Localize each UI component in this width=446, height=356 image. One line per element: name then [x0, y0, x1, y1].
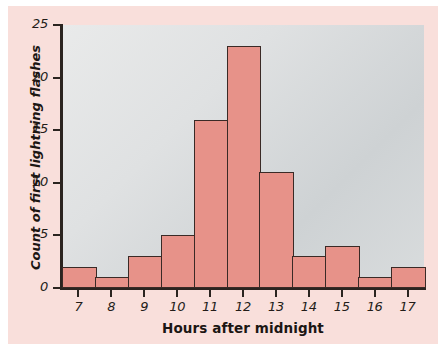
x-axis-tick	[242, 289, 244, 297]
x-axis-tick-label: 10	[162, 299, 192, 314]
histogram-bar	[325, 246, 360, 288]
y-axis-line	[60, 24, 63, 290]
x-axis-tick	[176, 289, 178, 297]
x-axis-title: Hours after midnight	[62, 320, 424, 336]
y-axis-title: Count of first lightning flashes	[28, 18, 43, 298]
y-axis-tick	[53, 77, 61, 79]
x-axis-tick-label: 15	[327, 299, 357, 314]
x-axis-tick	[209, 289, 211, 297]
y-axis-tick	[53, 182, 61, 184]
histogram-bar	[62, 267, 97, 288]
histogram-bar	[227, 46, 262, 288]
histogram-bar	[259, 172, 294, 288]
y-axis-tick	[53, 24, 61, 26]
x-axis-tick	[110, 289, 112, 297]
y-axis-tick	[53, 129, 61, 131]
x-axis-tick-label: 9	[129, 299, 159, 314]
x-axis-tick	[308, 289, 310, 297]
histogram-bar	[95, 277, 130, 288]
x-axis-tick	[77, 289, 79, 297]
x-axis-tick-label: 16	[360, 299, 390, 314]
histogram-bar	[292, 256, 327, 288]
x-axis-tick	[143, 289, 145, 297]
histogram-bar	[161, 235, 196, 288]
x-axis-tick-label: 11	[195, 299, 225, 314]
y-axis-tick	[53, 234, 61, 236]
x-axis-tick-label: 12	[228, 299, 258, 314]
figure-canvas: 0510152025 7891011121314151617 Hours aft…	[0, 0, 446, 356]
x-axis-tick	[407, 289, 409, 297]
x-axis-tick-label: 8	[96, 299, 126, 314]
x-axis-tick-label: 13	[261, 299, 291, 314]
x-axis-tick	[374, 289, 376, 297]
x-axis-tick	[275, 289, 277, 297]
histogram-bar	[194, 120, 229, 288]
x-axis-tick-label: 14	[294, 299, 324, 314]
histogram-bar	[391, 267, 426, 288]
y-axis-tick	[53, 287, 61, 289]
x-axis-tick	[341, 289, 343, 297]
histogram-bar	[128, 256, 163, 288]
x-axis-tick-label: 17	[393, 299, 423, 314]
x-axis-tick-label: 7	[63, 299, 93, 314]
histogram-bar	[358, 277, 393, 288]
